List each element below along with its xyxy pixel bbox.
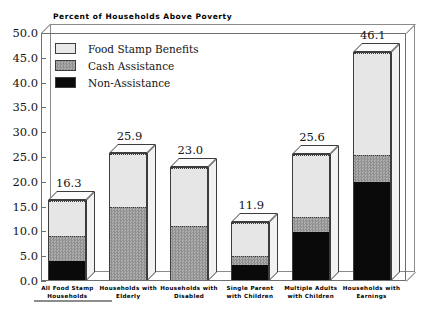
legend-item: Non-Assistance xyxy=(55,74,199,91)
y-axis-tick-label: 10.0 xyxy=(12,224,38,238)
y-axis-tick-mark xyxy=(41,83,46,84)
legend-swatch-non xyxy=(55,77,76,88)
chart-figure: Percent of Households Above Poverty 0.05… xyxy=(0,0,422,310)
chart-legend: Food Stamp BenefitsCash AssistanceNon-As… xyxy=(55,40,199,91)
x-axis-label-line: Households with xyxy=(341,284,402,292)
y-axis-tick-mark xyxy=(41,231,46,232)
bar-value-label: 25.9 xyxy=(117,129,143,143)
x-axis-label-line: Disabled xyxy=(159,292,220,300)
x-axis-label: All Food StampHouseholds xyxy=(37,284,98,300)
legend-label: Cash Assistance xyxy=(88,60,174,72)
frame-depth-edge xyxy=(406,272,416,282)
y-axis-tick-label: 25.0 xyxy=(12,150,38,164)
bar-value-label: 16.3 xyxy=(56,176,82,190)
x-axis-label: Households withDisabled xyxy=(159,284,220,300)
legend-swatch-food xyxy=(55,43,76,54)
x-axis-label: Households withEarnings xyxy=(341,284,402,300)
y-axis-tick-mark xyxy=(41,182,46,183)
x-axis-label-line: Earnings xyxy=(341,292,402,300)
bar-value-label: 25.6 xyxy=(299,130,325,144)
x-axis-label-line: Elderly xyxy=(98,292,159,300)
x-axis-label-line: Households with xyxy=(159,284,220,292)
legend-label: Non-Assistance xyxy=(88,77,170,89)
y-axis-tick-mark xyxy=(41,107,46,108)
y-axis-tick-mark xyxy=(41,58,46,59)
y-axis-tick-label: 45.0 xyxy=(12,51,38,65)
y-axis-tick-mark xyxy=(41,132,46,133)
legend-item: Food Stamp Benefits xyxy=(55,40,199,57)
x-axis-label: Multiple Adultswith Children xyxy=(280,284,341,300)
x-axis-label-line: Households xyxy=(37,292,98,300)
y-axis-tick-label: 35.0 xyxy=(12,100,38,114)
footer-rule xyxy=(34,300,112,302)
y-axis-tick-label: 0.0 xyxy=(20,274,38,288)
y-axis-tick-label: 20.0 xyxy=(12,175,38,189)
x-axis-label-line: Households with xyxy=(98,284,159,292)
x-axis-label: Households withElderly xyxy=(98,284,159,300)
y-axis-tick-label: 40.0 xyxy=(12,76,38,90)
y-axis-tick-label: 5.0 xyxy=(20,249,38,263)
x-axis-label-line: with Children xyxy=(280,292,341,300)
x-axis-label-line: All Food Stamp xyxy=(37,284,98,292)
bar-value-label: 23.0 xyxy=(178,143,204,157)
y-axis-tick-mark xyxy=(41,157,46,158)
y-axis: 0.05.010.015.020.025.030.035.040.045.050… xyxy=(0,0,38,310)
bar-value-label: 46.1 xyxy=(360,28,386,42)
x-axis-label-line: with Children xyxy=(220,292,281,300)
y-axis-tick-label: 30.0 xyxy=(12,125,38,139)
y-axis-tick-label: 50.0 xyxy=(12,26,38,40)
legend-swatch-cash xyxy=(55,60,76,71)
x-axis-label-line: Multiple Adults xyxy=(280,284,341,292)
legend-item: Cash Assistance xyxy=(55,57,199,74)
legend-label: Food Stamp Benefits xyxy=(88,43,199,55)
y-axis-tick-label: 15.0 xyxy=(12,200,38,214)
y-axis-tick-mark xyxy=(41,207,46,208)
y-axis-tick-mark xyxy=(41,256,46,257)
x-axis-label-line: Single Parent xyxy=(220,284,281,292)
x-axis-label: Single Parentwith Children xyxy=(220,284,281,300)
chart-title: Percent of Households Above Poverty xyxy=(53,12,232,21)
y-axis-tick-mark xyxy=(41,281,46,282)
bar-value-label: 11.9 xyxy=(238,198,264,212)
